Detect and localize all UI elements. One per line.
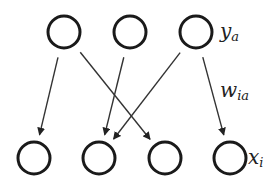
top-node [48,16,80,48]
bipartite-diagram: ya wia xi [0,0,278,189]
edge-arrow [80,52,150,139]
bottom-node [149,142,181,174]
edge-arrow [105,57,124,134]
edge-arrow [114,53,180,139]
bottom-node [83,142,115,174]
bottom-node [214,142,246,174]
label-x-i: xi [248,145,263,170]
bottom-node [18,142,50,174]
edge-arrow [40,57,58,134]
label-w-ia: wia [220,78,249,103]
top-node [180,16,212,48]
label-y-a: ya [219,19,239,44]
diagram-svg: ya wia xi [0,0,278,189]
top-node [114,16,146,48]
